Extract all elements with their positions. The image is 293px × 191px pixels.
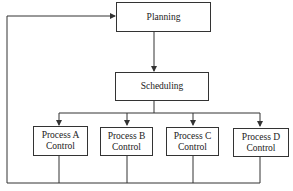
process-b-line2: Control [112, 142, 141, 153]
process-a-line2: Control [46, 141, 75, 152]
planning-node: Planning [116, 2, 211, 32]
process-c-line1: Process C [174, 131, 212, 142]
process-d-node: Process D Control [233, 128, 289, 157]
process-d-line2: Control [246, 143, 275, 154]
process-b-node: Process B Control [100, 127, 153, 156]
process-a-node: Process A Control [33, 126, 88, 156]
planning-label: Planning [147, 12, 181, 23]
process-c-line2: Control [178, 142, 207, 153]
process-d-line1: Process D [242, 132, 280, 143]
process-a-line1: Process A [42, 130, 80, 141]
process-c-node: Process C Control [166, 127, 219, 156]
flow-diagram: Planning Scheduling Process A Control Pr… [0, 0, 293, 191]
scheduling-label: Scheduling [141, 81, 184, 92]
process-b-line1: Process B [108, 131, 146, 142]
scheduling-node: Scheduling [115, 72, 209, 101]
